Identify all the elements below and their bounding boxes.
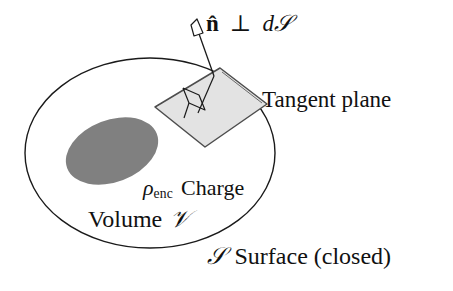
rho-symbol: ρ	[143, 175, 154, 200]
surface-element-symbol: 𝒮	[274, 10, 293, 36]
tangent-plane-patch	[155, 68, 267, 147]
volume-annotation: Volume𝒱	[88, 207, 191, 231]
rho-subscript: enc	[154, 186, 174, 201]
normal-vector-annotation: n̂⊥d𝒮	[206, 12, 292, 35]
charge-word: Charge	[181, 175, 244, 200]
surface-symbol: 𝒮	[207, 242, 227, 270]
volume-word: Volume	[88, 206, 162, 232]
gauss-law-diagram: n̂⊥d𝒮 Tangent plane ρencCharge Volume𝒱 𝒮…	[0, 0, 453, 291]
surface-annotation: 𝒮Surface (closed)	[207, 244, 391, 268]
tangent-plane-label: Tangent plane	[262, 88, 391, 111]
differential-d: d	[262, 11, 274, 36]
normal-vector-arrow-shaft	[198, 31, 214, 76]
n-hat-symbol: n	[206, 11, 219, 36]
surface-word: Surface (closed)	[235, 243, 392, 269]
perpendicular-icon: ⊥	[227, 11, 255, 36]
normal-vector-arrowhead	[191, 19, 203, 36]
volume-symbol: 𝒱	[170, 205, 191, 233]
charge-density-annotation: ρencCharge	[143, 177, 244, 201]
